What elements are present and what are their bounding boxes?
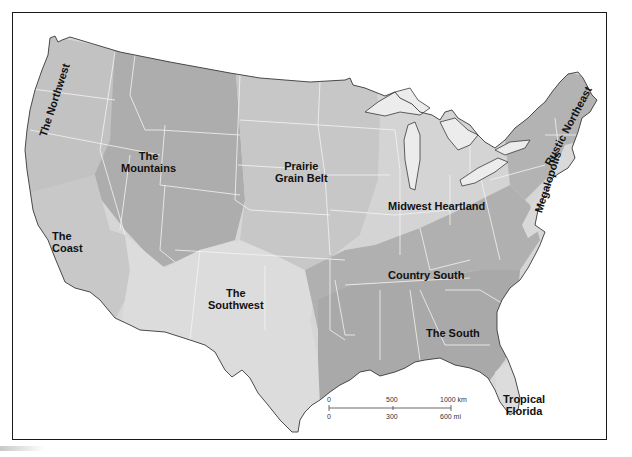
scale-km-0: 0 [327, 396, 331, 403]
label-southwest: The Southwest [208, 287, 264, 311]
label-florida-line2: Florida [503, 405, 545, 417]
scale-bar [329, 405, 451, 411]
scale-mi-300: 300 [386, 413, 398, 420]
label-south: The South [426, 327, 480, 339]
label-southwest-line1: The [208, 287, 264, 299]
label-mountains: The Mountains [121, 150, 176, 174]
scale-mi-600: 600 mi [440, 413, 461, 420]
region-southwest [120, 235, 320, 440]
us-regions-map [0, 0, 632, 457]
label-country-south: Country South [388, 269, 464, 281]
page-edge-shadow [0, 446, 45, 451]
label-prairie: Prairie Grain Belt [275, 160, 328, 184]
scale-km-1000: 1000 km [440, 396, 467, 403]
label-mountains-line2: Mountains [121, 162, 176, 174]
region-south [318, 270, 520, 405]
label-florida-line1: Tropical [503, 393, 545, 405]
label-midwest: Midwest Heartland [388, 200, 485, 212]
label-coast-line2: Coast [52, 242, 83, 254]
label-tropical-florida: Tropical Florida [503, 393, 545, 417]
scale-mi-0: 0 [327, 413, 331, 420]
scale-km-500: 500 [386, 396, 398, 403]
label-coast: The Coast [52, 230, 83, 254]
label-coast-line1: The [52, 230, 83, 242]
label-southwest-line2: Southwest [208, 299, 264, 311]
label-prairie-line2: Grain Belt [275, 172, 328, 184]
label-mountains-line1: The [121, 150, 176, 162]
label-prairie-line1: Prairie [275, 160, 328, 172]
